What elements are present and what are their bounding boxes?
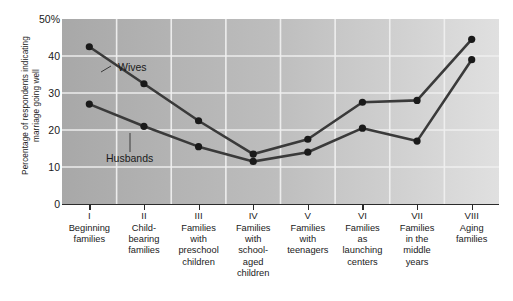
category-label-line: teenagers bbox=[281, 245, 336, 256]
category-label-line: in the bbox=[390, 234, 445, 245]
category-label-line: centers bbox=[335, 257, 390, 268]
data-point-husbands bbox=[468, 56, 475, 63]
category-label-line: Child- bbox=[117, 223, 172, 234]
category-label-line: years bbox=[390, 257, 445, 268]
chart-container: Percentage of respondents indicating mar… bbox=[0, 0, 513, 301]
category-label-line: Families bbox=[390, 223, 445, 234]
category-label-line: aged bbox=[226, 257, 281, 268]
category-label-line: families bbox=[444, 234, 499, 245]
category-label-line: middle bbox=[390, 245, 445, 256]
category-numeral: V bbox=[281, 210, 336, 222]
data-point-husbands bbox=[359, 125, 366, 132]
y-axis-tick-label: 0 bbox=[26, 199, 60, 210]
category-label-line: Aging bbox=[444, 223, 499, 234]
y-axis-tick-label: 30 bbox=[26, 88, 60, 99]
category-label-line: launching bbox=[335, 245, 390, 256]
data-point-wives bbox=[468, 36, 475, 43]
chart-plot-svg bbox=[62, 19, 499, 204]
category-label-line: as bbox=[335, 234, 390, 245]
category-label-line: Families bbox=[335, 223, 390, 234]
category-label-line: preschool bbox=[171, 245, 226, 256]
x-axis-category-iv: IVFamilieswithschool-agedchildren bbox=[226, 210, 281, 279]
y-axis-tick-label: 40 bbox=[26, 51, 60, 62]
x-axis-category-ii: IIChild-bearingfamilies bbox=[117, 210, 172, 257]
y-axis-tick-label: 50% bbox=[26, 14, 60, 25]
category-numeral: III bbox=[171, 210, 226, 222]
data-point-wives bbox=[140, 80, 147, 87]
data-point-husbands bbox=[140, 123, 147, 130]
category-label-line: children bbox=[226, 268, 281, 279]
plot-area bbox=[62, 19, 499, 204]
x-axis-category-vi: VIFamiliesaslaunchingcenters bbox=[335, 210, 390, 268]
data-point-wives bbox=[413, 97, 420, 104]
data-point-husbands bbox=[304, 149, 311, 156]
x-axis-category-viii: VIIIAgingfamilies bbox=[444, 210, 499, 245]
category-label-line: Families bbox=[171, 223, 226, 234]
category-label-line: with bbox=[226, 234, 281, 245]
x-axis-labels: IBeginningfamiliesIIChild-bearingfamilie… bbox=[62, 210, 499, 301]
category-label-line: Families bbox=[226, 223, 281, 234]
x-axis-category-i: IBeginningfamilies bbox=[62, 210, 117, 245]
data-point-wives bbox=[250, 150, 257, 157]
data-point-husbands bbox=[250, 158, 257, 165]
series-annotation-husbands: Husbands bbox=[106, 153, 153, 164]
category-label-line: Beginning bbox=[62, 223, 117, 234]
category-numeral: IV bbox=[226, 210, 281, 222]
category-numeral: I bbox=[62, 210, 117, 222]
x-axis-line bbox=[62, 204, 499, 205]
data-point-wives bbox=[304, 136, 311, 143]
y-axis-tick-label: 10 bbox=[26, 162, 60, 173]
category-label-line: children bbox=[171, 257, 226, 268]
category-label-line: families bbox=[62, 234, 117, 245]
data-point-husbands bbox=[86, 101, 93, 108]
category-numeral: VI bbox=[335, 210, 390, 222]
category-numeral: II bbox=[117, 210, 172, 222]
data-point-husbands bbox=[413, 138, 420, 145]
category-numeral: VIII bbox=[444, 210, 499, 222]
y-axis-ticks: 01020304050% bbox=[20, 0, 60, 301]
category-label-line: Families bbox=[281, 223, 336, 234]
category-label-line: with bbox=[281, 234, 336, 245]
data-point-husbands bbox=[195, 143, 202, 150]
y-axis-tick-label: 20 bbox=[26, 125, 60, 136]
x-axis-category-v: VFamilieswithteenagers bbox=[281, 210, 336, 257]
data-point-wives bbox=[195, 117, 202, 124]
data-point-wives bbox=[86, 43, 93, 50]
series-annotation-wives: Wives bbox=[118, 62, 147, 73]
x-axis-category-iii: IIIFamilieswithpreschoolchildren bbox=[171, 210, 226, 268]
x-axis-category-vii: VIIFamiliesin themiddleyears bbox=[390, 210, 445, 268]
category-label-line: families bbox=[117, 245, 172, 256]
category-numeral: VII bbox=[390, 210, 445, 222]
data-point-wives bbox=[359, 99, 366, 106]
category-label-line: bearing bbox=[117, 234, 172, 245]
category-label-line: with bbox=[171, 234, 226, 245]
category-label-line: school- bbox=[226, 245, 281, 256]
